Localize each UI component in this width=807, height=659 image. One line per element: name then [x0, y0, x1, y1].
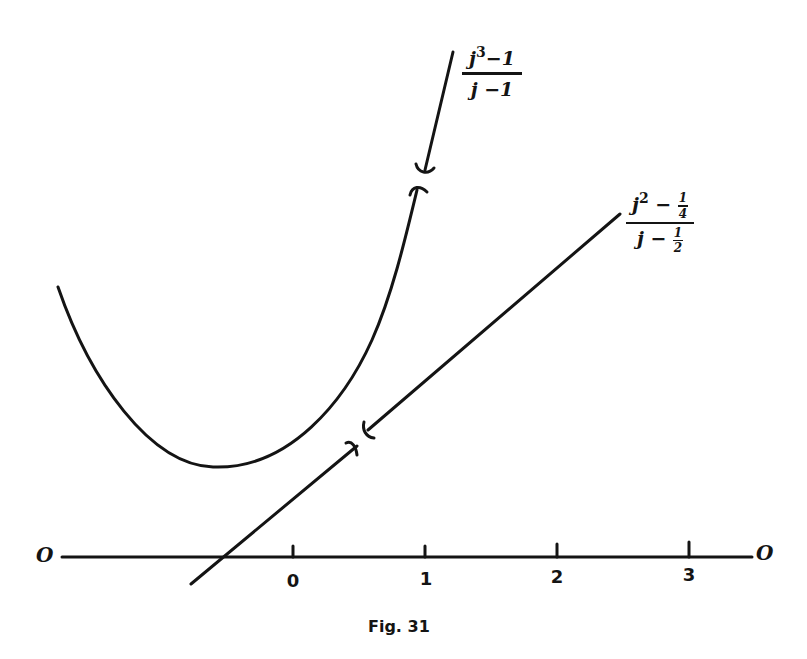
cubic-ratio-label: j3−1 j −1 — [462, 40, 522, 101]
arrowhead-up-icon — [410, 187, 427, 195]
numerator-var: j — [469, 47, 476, 69]
tick-label-3: 3 — [683, 564, 696, 585]
tick-label-2: 2 — [551, 566, 564, 587]
quarter-num: 1 — [679, 192, 687, 204]
figure-canvas — [0, 0, 807, 659]
cubic-ratio-denominator: j −1 — [471, 77, 514, 101]
numerator-tail: −1 — [486, 47, 515, 69]
square-ratio-denominator: j − 12 — [637, 226, 683, 254]
figure-caption: Fig. 31 — [368, 617, 430, 636]
square-ratio-label: j2 − 14 j − 12 — [626, 186, 694, 254]
square-ratio-line-upper — [368, 214, 620, 430]
axis-right-label: O — [756, 541, 773, 565]
numerator-var: j — [632, 193, 639, 215]
fraction-bar — [626, 222, 694, 225]
tick-label-1: 1 — [420, 568, 433, 589]
half-fraction: 12 — [673, 227, 683, 255]
denominator-text: j − — [637, 227, 673, 249]
quarter-fraction: 14 — [678, 192, 688, 220]
numerator-minus: − — [649, 193, 678, 215]
fraction-bar — [462, 72, 522, 75]
half-den: 2 — [674, 242, 682, 254]
quarter-den: 4 — [679, 208, 687, 220]
numerator-exp: 2 — [639, 190, 649, 206]
numerator-exp: 3 — [476, 44, 486, 60]
square-ratio-numerator: j2 − 14 — [632, 186, 688, 220]
cubic-ratio-numerator: j3−1 — [469, 40, 515, 70]
axis-left-label: O — [36, 543, 53, 567]
half-num: 1 — [674, 227, 682, 239]
tick-label-0: 0 — [287, 570, 300, 591]
cubic-ratio-upper-branch — [425, 52, 453, 170]
